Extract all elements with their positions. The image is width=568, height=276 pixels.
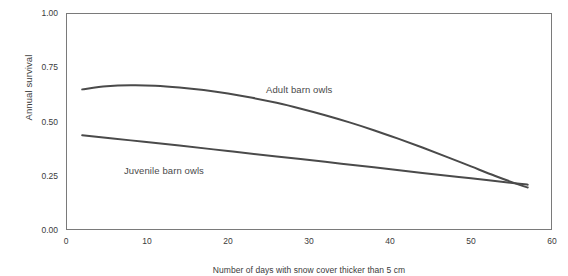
x-tick-0: 0 <box>51 236 81 246</box>
y-tick-0.00: 0.00 <box>18 225 58 235</box>
plot-area-frame <box>66 13 552 230</box>
x-tick-30: 30 <box>294 236 324 246</box>
x-tick-40: 40 <box>375 236 405 246</box>
series-label-juvenile-barn-owls: Juvenile barn owls <box>124 165 204 176</box>
x-tick-60: 60 <box>537 236 567 246</box>
y-tick-0.25: 0.25 <box>18 171 58 181</box>
x-axis-title: Number of days with snow cover thicker t… <box>66 265 552 275</box>
series-label-adult-barn-owls: Adult barn owls <box>266 84 332 95</box>
x-tick-20: 20 <box>213 236 243 246</box>
x-tick-50: 50 <box>456 236 486 246</box>
chart-container: Annual survival 0.000.250.500.751.00 010… <box>0 0 568 276</box>
y-axis-title: Annual survival <box>23 8 34 168</box>
x-tick-10: 10 <box>132 236 162 246</box>
